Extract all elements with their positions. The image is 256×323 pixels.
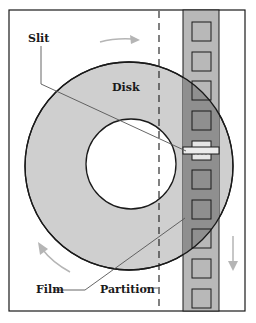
disk-hole bbox=[86, 119, 176, 209]
partition-label: Partition bbox=[100, 284, 155, 295]
slit-label: Slit bbox=[28, 33, 49, 44]
slit bbox=[183, 147, 219, 154]
disk-film-diagram bbox=[0, 0, 256, 323]
disk-label: Disk bbox=[112, 82, 140, 93]
film-label: Film bbox=[36, 284, 64, 295]
